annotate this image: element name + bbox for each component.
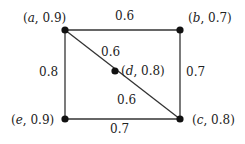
weight-e-c: 0.7 (110, 122, 129, 136)
graph-diagram: (a, 0.9) (b, 0.7) (d, 0.8) (e, 0.9) (c, … (0, 0, 245, 144)
weight-b-c: 0.7 (186, 65, 205, 79)
weight-a-d: 0.6 (101, 45, 120, 59)
node-label-a: (a, 0.9) (23, 11, 66, 25)
node-c (176, 115, 183, 122)
node-e (61, 115, 68, 122)
node-d (111, 67, 118, 74)
node-b (176, 26, 183, 33)
weight-d-c: 0.6 (117, 93, 136, 107)
weight-a-b: 0.6 (115, 9, 134, 23)
node-a (61, 26, 68, 33)
node-label-e: (e, 0.9) (11, 113, 54, 127)
node-label-d: (d, 0.8) (121, 64, 165, 78)
node-label-b: (b, 0.7) (188, 11, 232, 25)
node-label-c: (c, 0.8) (192, 113, 235, 127)
weight-a-e: 0.8 (39, 65, 58, 79)
